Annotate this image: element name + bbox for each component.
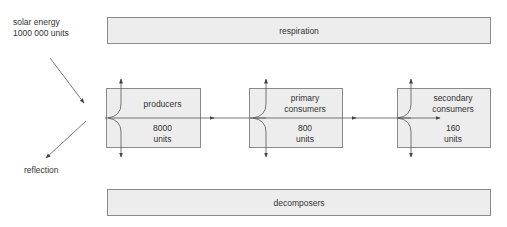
primary-consumers-box: primary consumers 800 units [249, 88, 343, 148]
secondary-value: 160 [446, 123, 460, 134]
decomposers-label: decomposers [273, 198, 324, 208]
decomposers-box: decomposers [107, 189, 491, 216]
producers-unit: units [154, 134, 172, 145]
solar-energy-label: solar energy 1000 000 units [13, 17, 69, 39]
solar-energy-line1: solar energy [13, 17, 69, 28]
producers-box: producers 8000 units [106, 88, 201, 148]
reflection-label: reflection [24, 165, 59, 176]
primary-value: 800 [298, 123, 312, 134]
secondary-consumers-box: secondary consumers 160 units [397, 88, 491, 148]
primary-unit: units [296, 134, 314, 145]
respiration-label: respiration [279, 26, 319, 36]
producers-value: 8000 [153, 123, 172, 134]
respiration-box: respiration [107, 17, 491, 44]
secondary-unit: units [444, 134, 462, 145]
solar-energy-line2: 1000 000 units [13, 28, 69, 39]
primary-label-2: consumers [284, 104, 326, 115]
secondary-label-2: consumers [432, 104, 474, 115]
secondary-label-1: secondary [433, 93, 472, 104]
producers-label: producers [144, 99, 182, 110]
primary-label-1: primary [291, 93, 319, 104]
